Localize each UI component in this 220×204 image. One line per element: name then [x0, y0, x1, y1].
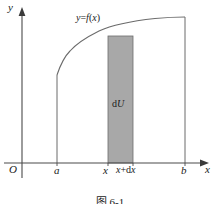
- tick-label-b: b: [181, 165, 187, 176]
- differential-element-label: dU: [112, 99, 124, 109]
- tick-label-x-plus-dx: x+dx: [116, 165, 136, 175]
- origin-label: O: [9, 164, 17, 175]
- y-axis-label: y: [8, 2, 13, 13]
- integral-area-diagram: [0, 0, 220, 204]
- curve-equation-label: y=f(x): [76, 13, 100, 23]
- curve-equation-close-paren: ): [97, 12, 100, 23]
- tick-label-a: a: [54, 165, 60, 176]
- tick-label-x: x: [103, 165, 108, 176]
- tick-label-x-plus-dx-op: +d: [120, 164, 131, 175]
- x-axis-label: x: [205, 164, 210, 175]
- figure-caption: 图 6-1: [0, 193, 220, 204]
- tick-label-x-plus-dx-dxvar: x: [131, 164, 135, 175]
- figure-container: y x O a x x+dx b y=f(x) dU 图 6-1: [0, 0, 220, 204]
- y-axis-arrowhead: [19, 7, 26, 16]
- differential-element-u: U: [117, 98, 124, 109]
